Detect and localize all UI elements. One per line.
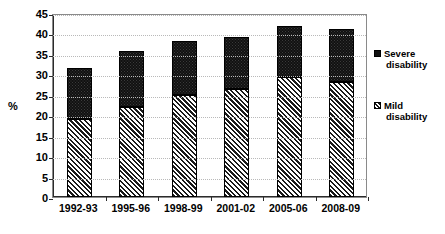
y-tick-mark xyxy=(49,138,53,139)
y-tick-mark xyxy=(49,35,53,36)
plot-area xyxy=(52,14,367,198)
x-tick-mark xyxy=(316,197,317,201)
y-tick-label: 5 xyxy=(14,172,48,184)
legend-label: Milddisability xyxy=(384,100,427,122)
y-tick-mark xyxy=(49,76,53,77)
y-axis-tick-labels: 454035302520151050 xyxy=(14,14,48,198)
y-tick-mark xyxy=(49,97,53,98)
gridline xyxy=(53,117,366,118)
y-tick-label: 20 xyxy=(14,110,48,122)
y-tick-label: 0 xyxy=(14,192,48,204)
gridline xyxy=(53,56,366,57)
bar-segment-mild xyxy=(172,95,197,197)
y-tick-mark xyxy=(49,199,53,200)
x-tick-label: 2001-02 xyxy=(216,202,255,214)
mild-swatch-icon xyxy=(374,102,381,109)
legend-label: Severedisability xyxy=(384,48,427,70)
y-tick-label: 30 xyxy=(14,69,48,81)
bar-segment-severe xyxy=(277,26,302,77)
x-tick-mark xyxy=(106,197,107,201)
y-tick-mark xyxy=(49,56,53,57)
x-tick-label: 1995-96 xyxy=(111,202,150,214)
bar-segment-severe xyxy=(172,41,197,95)
x-tick-label: 1992-93 xyxy=(59,202,98,214)
y-tick-mark xyxy=(49,158,53,159)
gridline xyxy=(53,97,366,98)
x-tick-mark xyxy=(158,197,159,201)
y-tick-label: 25 xyxy=(14,90,48,102)
y-tick-label: 35 xyxy=(14,49,48,61)
y-tick-label: 45 xyxy=(14,8,48,20)
y-tick-mark xyxy=(49,117,53,118)
legend-item[interactable]: Severedisability xyxy=(374,48,444,70)
bar-group xyxy=(277,26,302,197)
bar-series-container xyxy=(53,15,366,197)
y-tick-label: 15 xyxy=(14,131,48,143)
x-axis-tick-labels: 1992-931995-961998-992001-022005-062008-… xyxy=(52,202,367,220)
x-tick-label: 2005-06 xyxy=(269,202,308,214)
bar-group xyxy=(172,41,197,197)
legend-item[interactable]: Milddisability xyxy=(374,100,444,122)
x-tick-label: 1998-99 xyxy=(164,202,203,214)
x-tick-label: 2008-09 xyxy=(321,202,360,214)
gridline xyxy=(53,138,366,139)
bar-segment-mild xyxy=(224,89,249,197)
x-tick-mark xyxy=(368,197,369,201)
x-tick-mark xyxy=(263,197,264,201)
bar-segment-severe xyxy=(224,37,249,89)
gridline xyxy=(53,158,366,159)
y-tick-mark xyxy=(49,15,53,16)
y-tick-label: 40 xyxy=(14,28,48,40)
gridline xyxy=(53,76,366,77)
bar-segment-mild xyxy=(329,82,354,197)
severe-swatch-icon xyxy=(374,50,381,57)
y-tick-mark xyxy=(49,179,53,180)
bar-group xyxy=(119,51,144,197)
gridline xyxy=(53,179,366,180)
x-tick-mark xyxy=(211,197,212,201)
bar-group xyxy=(329,29,354,197)
bar-segment-mild xyxy=(119,107,144,197)
bar-segment-severe xyxy=(119,51,144,107)
y-tick-label: 10 xyxy=(14,151,48,163)
gridline xyxy=(53,15,366,16)
stacked-bar-chart: % 454035302520151050 1992-931995-961998-… xyxy=(0,0,445,234)
gridline xyxy=(53,35,366,36)
